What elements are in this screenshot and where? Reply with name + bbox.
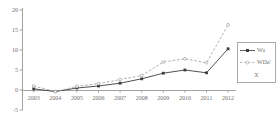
data-point	[184, 57, 187, 60]
line-chart: -505101520200320042005200620072008200920…	[0, 0, 279, 119]
x-tick-label: 2010	[179, 95, 191, 101]
y-tick-label: 10	[12, 47, 18, 53]
legend-sample-dashed-line-icon	[240, 59, 255, 66]
data-point	[227, 47, 230, 50]
data-point	[76, 85, 79, 88]
y-tick-label: -5	[13, 107, 18, 113]
data-point	[205, 61, 208, 64]
legend: Wa WDa' X	[237, 42, 276, 83]
data-point	[119, 82, 122, 85]
y-tick-label: 5	[15, 67, 18, 73]
data-point	[227, 23, 230, 26]
data-point	[140, 77, 143, 80]
x-tick-label: 2007	[114, 95, 126, 101]
data-point	[162, 72, 165, 75]
data-point	[162, 61, 165, 64]
legend-item-wda: WDa'	[240, 56, 273, 68]
legend-sample-solid-line-icon	[240, 47, 255, 54]
y-tick-label: 20	[12, 7, 18, 13]
legend-item-wa: Wa	[240, 44, 273, 56]
legend-label-x: X	[254, 72, 258, 78]
legend-label-wa: Wa	[257, 47, 265, 53]
data-point	[32, 87, 35, 90]
series-line-Wa	[34, 49, 228, 92]
x-tick-label: 2012	[222, 95, 234, 101]
x-tick-label: 2011	[201, 95, 213, 101]
y-tick-label: 15	[12, 27, 18, 33]
legend-item-x: X	[240, 69, 273, 81]
x-tick-label: 2003	[28, 95, 40, 101]
x-tick-label: 2004	[49, 95, 61, 101]
legend-label-wda: WDa'	[257, 59, 271, 65]
data-point	[205, 71, 208, 74]
series-line-WDa'	[34, 25, 228, 92]
data-point	[119, 78, 122, 81]
data-point	[140, 74, 143, 77]
x-tick-label: 2008	[136, 95, 148, 101]
x-tick-label: 2006	[93, 95, 105, 101]
data-point	[184, 69, 187, 72]
data-point	[97, 82, 100, 85]
x-tick-label: 2005	[71, 95, 83, 101]
data-point	[32, 85, 35, 88]
data-point	[54, 90, 57, 93]
y-tick-label: 0	[15, 87, 18, 93]
x-tick-label: 2009	[157, 95, 169, 101]
